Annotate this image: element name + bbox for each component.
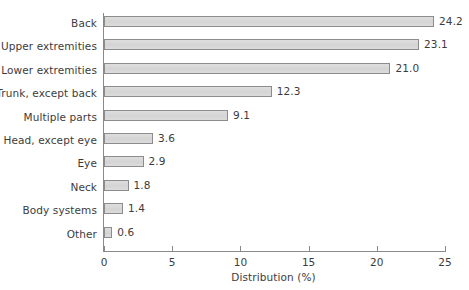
x-axis-tick-mark	[240, 246, 241, 251]
x-axis-tick-label: 0	[101, 256, 108, 268]
x-axis-tick-label: 10	[234, 256, 247, 268]
bar-chart: Back24.2Upper extremities23.1Lower extre…	[0, 0, 469, 290]
x-axis-tick-mark	[104, 246, 105, 251]
x-axis-tick-label: 20	[370, 256, 383, 268]
x-axis-tick-label: 25	[438, 256, 451, 268]
x-axis-tick-mark	[309, 246, 310, 251]
x-axis-title: Distribution (%)	[0, 271, 469, 283]
x-axis-ticks: 0510152025	[0, 0, 469, 290]
x-axis-tick-mark	[172, 246, 173, 251]
x-axis-tick-mark	[445, 246, 446, 251]
x-axis-title-label: Distribution (%)	[231, 271, 315, 283]
x-axis-tick-label: 5	[169, 256, 176, 268]
x-axis-tick-mark	[377, 246, 378, 251]
x-axis-tick-label: 15	[302, 256, 315, 268]
